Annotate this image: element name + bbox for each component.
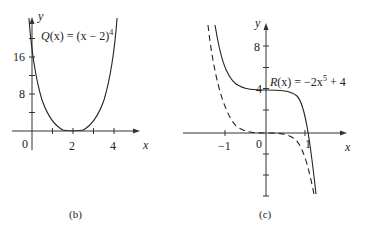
panel-c (183, 23, 347, 196)
tick-label-16: 16 (13, 50, 25, 64)
tick-label-1: 1 (305, 137, 311, 151)
equation-q: Q(x) = (x − 2)4 (41, 28, 113, 43)
curve-dashed (208, 25, 314, 194)
caption-b: (b) (69, 208, 82, 221)
x-axis-arrow-icon (340, 131, 347, 136)
y-axis-arrow-icon (264, 23, 269, 30)
tick-label-2: 2 (69, 139, 75, 153)
tick-label-4: 4 (110, 139, 116, 153)
equation-r: R(x) = −2x5 + 4 (269, 74, 346, 89)
x-axis-arrow-icon (133, 129, 140, 134)
tick-label-8: 8 (254, 40, 260, 54)
tick-label-4: 4 (256, 82, 262, 96)
y-axis-arrow-icon (30, 17, 35, 24)
x-label-b: x (142, 138, 149, 152)
tick-label-0: 0 (256, 137, 262, 151)
tick-label-neg1: −1 (218, 139, 231, 153)
tick-label-8: 8 (19, 87, 25, 101)
y-label-b: y (37, 9, 44, 23)
x-label-c: x (344, 140, 351, 154)
caption-c: (c) (259, 208, 272, 221)
figure: y x 0 2 4 8 16 Q(x) = (x − 2)4 (b) y x −… (0, 0, 366, 234)
tick-label-0: 0 (22, 137, 28, 151)
y-label-c: y (254, 16, 261, 30)
